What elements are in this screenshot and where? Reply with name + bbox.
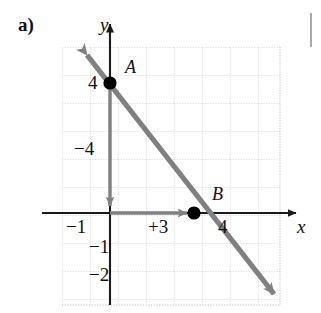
x-axis-label: x <box>297 216 305 238</box>
point-a-marker <box>103 76 116 89</box>
point-b-label: B <box>212 184 223 205</box>
coordinate-graph-figure <box>0 0 321 313</box>
run-annotation-label: +3 <box>148 216 168 238</box>
point-a-label: A <box>125 57 136 78</box>
point-b-marker <box>187 206 200 219</box>
x-tick-neg1: −1 <box>66 216 86 238</box>
rise-annotation-label: −4 <box>74 138 94 160</box>
y-tick-neg2: −2 <box>89 264 109 286</box>
x-tick-4: 4 <box>218 216 228 238</box>
y-axis-label: y <box>100 14 108 36</box>
y-tick-4: 4 <box>88 72 98 94</box>
y-tick-neg1: −1 <box>89 236 109 258</box>
part-label: a) <box>18 14 34 36</box>
